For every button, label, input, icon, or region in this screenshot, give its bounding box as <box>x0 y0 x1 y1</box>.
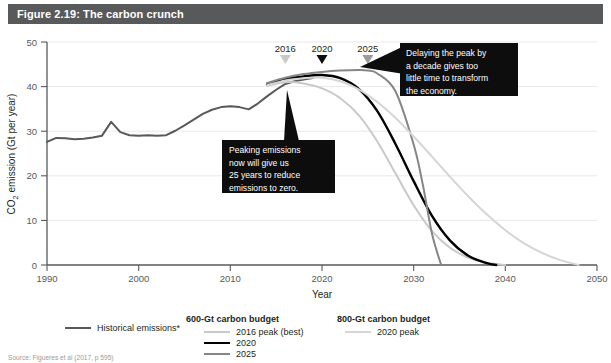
peak-marker-triangle-2016 <box>280 55 291 64</box>
peak-marker-label-2016: 2016 <box>275 43 296 54</box>
chart-plot: 50 40 30 20 10 0 CO2 emission (Gt per ye… <box>0 24 611 304</box>
annotation-delaying-peak-line-2: little time to transform <box>406 73 488 83</box>
legend-label-600gt-2020: 2020 <box>236 338 256 348</box>
x-tick-2000: 2000 <box>128 273 149 284</box>
y-tick-10: 10 <box>26 215 37 226</box>
annotation-delaying-peak-line-3: the economy. <box>406 86 457 96</box>
legend-label-600gt-2016: 2016 peak (best) <box>236 327 304 337</box>
y-tick-50: 50 <box>26 37 37 48</box>
annotation-delaying-peak: Delaying the peak by a decade gives too … <box>360 43 518 96</box>
legend-label-600gt-2025: 2025 <box>236 349 256 359</box>
series-line-0 <box>47 78 313 142</box>
legend-swatch-historical <box>65 327 91 329</box>
x-tick-2040: 2040 <box>495 273 516 284</box>
legend-item-600gt-2025: 2025 <box>186 348 304 359</box>
peak-marker-label-2020: 2020 <box>311 43 332 54</box>
legend-group-800gt: 800-Gt carbon budget 2020 peak <box>337 314 430 337</box>
legend-item-800gt-2020: 2020 peak <box>337 326 430 337</box>
source-note: Source: Figueres et al (2017, p 595) <box>8 354 114 361</box>
annotation-delaying-peak-line-0: Delaying the peak by <box>406 48 487 58</box>
legend-item-600gt-2016: 2016 peak (best) <box>186 326 304 337</box>
figure-title: Figure 2.19: The carbon crunch <box>8 8 184 20</box>
annotation-peaking-now-line-0: Peaking emissions <box>229 145 301 155</box>
legend-group-600gt: 600-Gt carbon budget 2016 peak (best) 20… <box>186 314 304 359</box>
annotation-peaking-now-line-3: emissions to zero. <box>229 183 298 193</box>
figure-header: Figure 2.19: The carbon crunch <box>8 4 603 24</box>
x-axis: 1990 2000 2010 2020 2030 2040 2050 Year <box>36 265 607 300</box>
chart-legend: Historical emissions* 600-Gt carbon budg… <box>0 304 611 350</box>
legend-swatch-600gt-2020 <box>204 342 230 344</box>
chart-container: 50 40 30 20 10 0 CO2 emission (Gt per ye… <box>0 24 611 304</box>
peak-marker-label-2025: 2025 <box>357 43 378 54</box>
peak-marker-layer: 201620202025 <box>275 43 379 64</box>
legend-heading-800gt: 800-Gt carbon budget <box>337 314 430 324</box>
annotation-peaking-now-line-1: now will give us <box>229 158 289 168</box>
y-axis-title: CO2 emission (Gt per year) <box>6 94 20 215</box>
x-tick-2030: 2030 <box>403 273 424 284</box>
y-axis: 50 40 30 20 10 0 <box>26 37 47 271</box>
y-tick-20: 20 <box>26 170 37 181</box>
legend-label-historical: Historical emissions* <box>97 323 180 333</box>
legend-heading-600gt: 600-Gt carbon budget <box>186 314 304 324</box>
legend-group-historical: Historical emissions* <box>65 322 180 333</box>
legend-item-600gt-2020: 2020 <box>186 337 304 348</box>
x-axis-title: Year <box>312 289 333 300</box>
svg-text:CO2 emission (Gt per year): CO2 emission (Gt per year) <box>6 94 20 215</box>
x-tick-2010: 2010 <box>220 273 241 284</box>
legend-swatch-800gt-2020 <box>345 331 371 333</box>
legend-label-800gt-2020: 2020 peak <box>377 327 419 337</box>
y-tick-0: 0 <box>32 260 37 271</box>
peak-marker-triangle-2020 <box>317 55 328 64</box>
x-tick-2050: 2050 <box>586 273 607 284</box>
y-tick-30: 30 <box>26 126 37 137</box>
legend-swatch-600gt-2025 <box>204 353 230 355</box>
x-tick-2020: 2020 <box>311 273 332 284</box>
annotation-peaking-now-line-2: 25 years to reduce <box>229 170 300 180</box>
legend-item-historical: Historical emissions* <box>65 322 180 333</box>
annotation-delaying-peak-line-1: a decade gives too <box>406 61 478 71</box>
annotation-peaking-now: Peaking emissions now will give us 25 ye… <box>222 90 335 193</box>
x-tick-1990: 1990 <box>36 273 57 284</box>
y-tick-40: 40 <box>26 81 37 92</box>
legend-swatch-600gt-2016 <box>204 331 230 333</box>
